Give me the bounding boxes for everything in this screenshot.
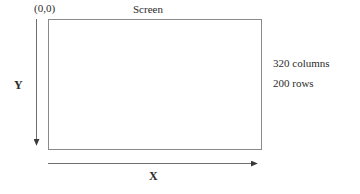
- y-axis-label: Y: [14, 79, 23, 91]
- screen-coordinate-diagram: (0,0) Screen Y X 320 columns 200 rows: [0, 0, 360, 194]
- screen-rectangle: [49, 20, 262, 150]
- columns-annotation: 320 columns: [273, 58, 330, 69]
- x-axis-label: X: [149, 170, 158, 182]
- rows-annotation: 200 rows: [273, 78, 314, 89]
- diagram-vector-layer: [0, 0, 360, 194]
- screen-title-label: Screen: [133, 4, 163, 15]
- origin-label: (0,0): [34, 3, 55, 14]
